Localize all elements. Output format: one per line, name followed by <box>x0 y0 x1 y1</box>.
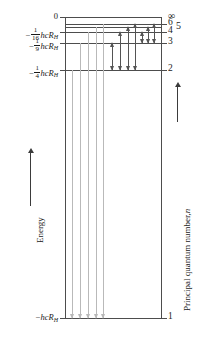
arrow-head-down <box>133 66 137 71</box>
arrow-shaft <box>103 24 104 318</box>
transition-arrow-head-up-paschen <box>142 32 143 33</box>
transition-arrow-head-up-balmer <box>120 32 121 33</box>
arrow-head-down <box>94 314 98 319</box>
energy-axis-arrowhead <box>28 148 34 153</box>
quantum-number-axis-caption-text: Principal quantum number, <box>182 213 192 311</box>
arrow-head-up <box>133 23 137 28</box>
transition-arrow-balmer <box>135 24 136 70</box>
energy-axis-tick <box>60 17 65 18</box>
energy-axis-tick <box>60 43 65 44</box>
quantum-number-label-2: 2 <box>168 64 173 74</box>
energy-axis-arrow <box>30 152 31 206</box>
arrow-shaft <box>96 27 97 318</box>
transition-arrow-lyman <box>103 24 104 318</box>
energy-axis-tick <box>60 70 65 71</box>
arrow-head-down <box>110 66 114 71</box>
energy-level-line <box>65 24 162 25</box>
arrow-head-up <box>140 31 144 36</box>
transition-arrow-balmer <box>128 27 129 70</box>
transition-arrow-head-up-balmer <box>112 43 113 44</box>
energy-value-label: −14hcRH <box>29 65 58 80</box>
quantum-number-axis-arrow <box>177 86 178 122</box>
transition-arrow-lyman <box>88 32 89 318</box>
arrow-head-down <box>118 66 122 71</box>
transition-arrow-head-up-paschen <box>148 27 149 28</box>
energy-unit-subscript: H <box>54 72 58 78</box>
quantum-number-axis-tick <box>162 32 167 33</box>
transition-arrow-lyman <box>72 70 73 318</box>
arrow-head-down <box>70 314 74 319</box>
energy-level-diagram: 0−116hcRH−19hcRH−14hcRH−hcRH ∞654321 Ene… <box>0 0 197 346</box>
energy-axis-tick <box>60 32 65 33</box>
quantum-number-axis-caption: Principal quantum number,n <box>182 209 192 311</box>
quantum-number-symbol: n <box>182 209 192 214</box>
arrow-shaft <box>128 27 129 70</box>
arrow-shaft <box>120 32 121 70</box>
quantum-number-label-3: 3 <box>168 37 173 47</box>
quantum-number-label-4: 4 <box>168 26 173 36</box>
energy-axis-tick <box>60 318 65 319</box>
arrow-head-up <box>146 26 150 31</box>
arrow-head-down <box>140 39 144 44</box>
arrow-head-up <box>126 26 130 31</box>
transition-arrow-head-up-balmer <box>128 27 129 28</box>
frame-left-border <box>65 17 66 318</box>
arrow-head-up <box>118 31 122 36</box>
arrow-shaft <box>72 70 73 318</box>
arrow-head-down <box>126 66 130 71</box>
energy-value-label: −19hcRH <box>29 38 58 53</box>
transition-arrow-lyman <box>96 27 97 318</box>
energy-value-label: −hcRH <box>36 313 58 323</box>
transition-arrow-lyman <box>80 43 81 318</box>
transition-arrow-head-up-paschen <box>154 24 155 25</box>
arrow-head-down <box>101 314 105 319</box>
transition-arrow-balmer <box>120 32 121 70</box>
arrow-head-down <box>86 314 90 319</box>
energy-value-label: 0 <box>54 12 58 21</box>
arrow-head-down <box>146 39 150 44</box>
quantum-number-axis-tick <box>162 24 167 25</box>
quantum-number-label-1: 1 <box>168 312 173 322</box>
energy-axis-caption-text: Energy <box>35 217 45 243</box>
energy-unit: hcR <box>40 41 53 51</box>
energy-unit-subscript: H <box>54 45 58 51</box>
frame-right-border <box>161 17 162 318</box>
energy-axis-caption: Energy <box>35 217 45 243</box>
energy-unit-subscript: H <box>54 317 58 323</box>
quantum-number-axis-tick <box>162 318 167 319</box>
energy-unit: hcR <box>40 312 53 322</box>
quantum-number-label-5: 5 <box>176 21 181 31</box>
arrow-shaft <box>135 24 136 70</box>
transition-arrow-balmer <box>112 43 113 70</box>
quantum-number-axis-tick <box>162 43 167 44</box>
energy-level-line <box>65 17 162 18</box>
arrow-shaft <box>88 32 89 318</box>
quantum-number-axis-arrowhead <box>175 82 181 87</box>
arrow-head-down <box>78 314 82 319</box>
arrow-shaft <box>80 43 81 318</box>
quantum-number-axis-tick <box>162 70 167 71</box>
fraction-numerator: 1 <box>31 27 40 34</box>
transition-arrow-head-up-balmer <box>135 24 136 25</box>
energy-unit: hcR <box>40 68 53 78</box>
arrow-head-down <box>152 39 156 44</box>
arrow-head-up <box>152 23 156 28</box>
arrow-head-up <box>110 42 114 47</box>
